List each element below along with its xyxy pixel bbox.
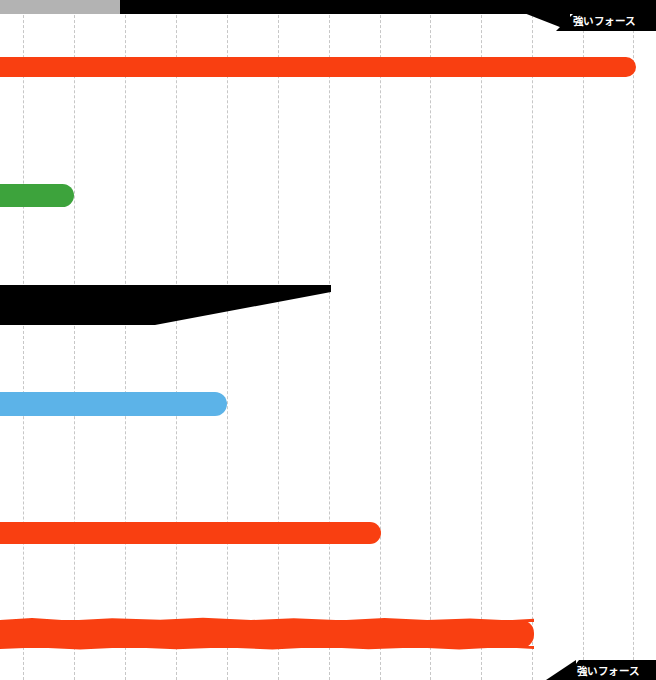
gridline-9 xyxy=(481,0,483,680)
gridline-0 xyxy=(23,0,25,680)
header-gray-band xyxy=(0,0,123,14)
bar-green-1 xyxy=(0,184,74,207)
grid-lines xyxy=(0,0,656,680)
gridline-5 xyxy=(278,0,280,680)
wedge-black-1 xyxy=(0,283,331,325)
header-black-band xyxy=(120,0,656,14)
gridline-4 xyxy=(227,0,229,680)
gridline-8 xyxy=(430,0,432,680)
bottom-right-label-tab: 強いフォース xyxy=(563,660,656,680)
gridline-2 xyxy=(125,0,127,680)
top-right-label-tab: 強いフォース xyxy=(556,13,656,31)
bar-orange-3 xyxy=(0,620,534,648)
screenshot-canvas: 強いフォース 強いフォース xyxy=(0,0,656,680)
bar-blue-1 xyxy=(0,392,227,416)
gridline-10 xyxy=(532,0,534,680)
gridline-12 xyxy=(633,0,635,680)
bar-orange-1 xyxy=(0,57,636,77)
bar-orange-2 xyxy=(0,522,381,544)
gridline-7 xyxy=(380,0,382,680)
gridline-6 xyxy=(329,0,331,680)
gridline-3 xyxy=(176,0,178,680)
gridline-11 xyxy=(583,0,585,680)
gridline-1 xyxy=(74,0,76,680)
